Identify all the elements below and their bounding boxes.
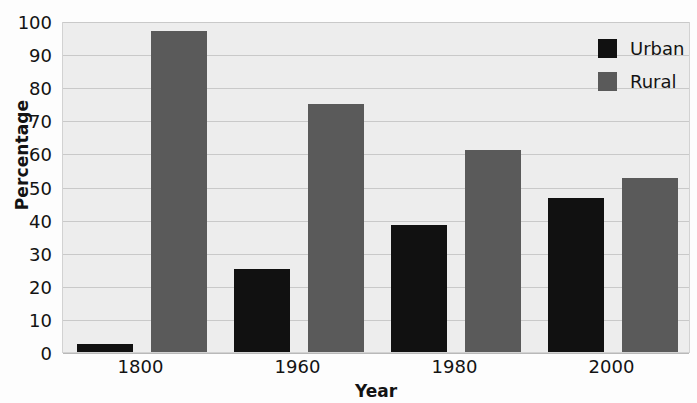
y-axis-tick-label: 80 (0, 78, 52, 99)
bar-urban-1960 (234, 269, 290, 352)
legend-label: Urban (630, 38, 684, 59)
bar-chart: Percentage 0102030405060708090100 180019… (0, 0, 697, 403)
x-axis-tick-label: 2000 (589, 356, 635, 377)
legend: UrbanRural (598, 32, 684, 98)
y-axis-tick-label: 60 (0, 144, 52, 165)
x-axis-title: Year (62, 381, 690, 401)
bar-urban-1800 (77, 344, 133, 352)
x-axis-tick-label: 1800 (118, 356, 164, 377)
legend-label: Rural (630, 71, 677, 92)
bar-rural-2000 (622, 178, 678, 352)
y-axis-tick-label: 0 (0, 343, 52, 364)
y-axis-tick-label: 100 (0, 12, 52, 33)
y-axis-tick-label: 40 (0, 210, 52, 231)
legend-swatch-icon (598, 72, 617, 91)
bar-rural-1960 (308, 104, 364, 352)
bar-rural-1980 (465, 150, 521, 352)
y-axis-tick-label: 30 (0, 243, 52, 264)
x-axis-tick-label: 1960 (275, 356, 321, 377)
bar-rural-1800 (151, 31, 207, 352)
gridline (63, 353, 689, 354)
legend-item-rural: Rural (598, 65, 684, 98)
bars-layer (63, 23, 689, 352)
x-axis-tick-label: 1980 (432, 356, 478, 377)
bar-urban-1980 (391, 225, 447, 352)
y-axis-tick-label: 90 (0, 45, 52, 66)
y-axis-tick-label: 20 (0, 276, 52, 297)
y-axis-tick-label: 70 (0, 111, 52, 132)
x-axis-tick-labels: 1800196019802000 (62, 356, 690, 382)
plot-area (62, 22, 690, 353)
y-axis-tick-label: 50 (0, 177, 52, 198)
y-axis-tick-label: 10 (0, 309, 52, 330)
bar-urban-2000 (548, 198, 604, 352)
legend-swatch-icon (598, 39, 617, 58)
y-axis-tick-labels: 0102030405060708090100 (0, 0, 56, 403)
legend-item-urban: Urban (598, 32, 684, 65)
